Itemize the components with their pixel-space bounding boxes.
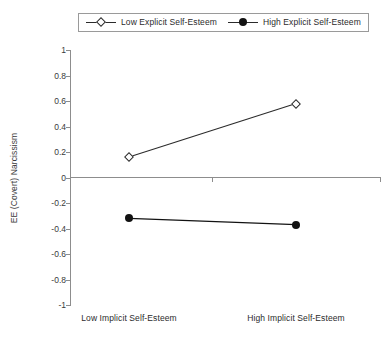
series-line-low-explicit bbox=[129, 104, 296, 158]
data-point-marker bbox=[125, 214, 133, 222]
plot-area: 10.80.60.40.20-0.2-0.4-0.6-0.8-1 EE (Cov… bbox=[0, 0, 388, 342]
series-lines bbox=[0, 0, 388, 342]
interaction-plot-figure: Low Explicit Self-Esteem High Explicit S… bbox=[0, 0, 388, 342]
data-point-marker bbox=[292, 221, 300, 229]
series-line-high-explicit bbox=[129, 218, 296, 224]
